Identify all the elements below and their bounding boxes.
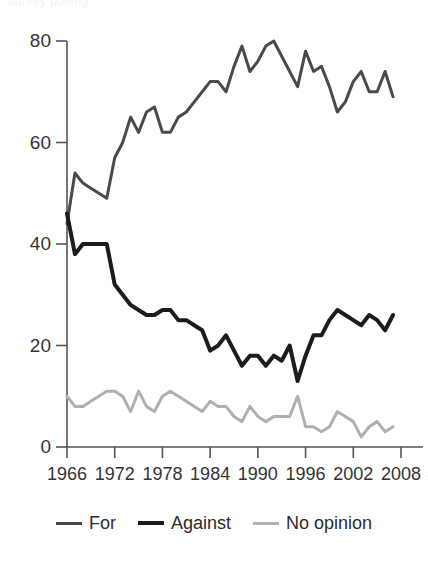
legend-label-no-opinion: No opinion: [286, 514, 372, 532]
y-axis-tick-label: 60: [0, 133, 51, 152]
legend-item-against[interactable]: Against: [138, 514, 231, 532]
y-axis-tick-label: 0: [0, 437, 51, 456]
legend-swatch-no-opinion: [253, 522, 279, 525]
legend-item-for[interactable]: For: [56, 514, 116, 532]
y-axis-tick-label: 20: [0, 336, 51, 355]
chart-root: survey polling For Against No opinion 02…: [0, 0, 428, 562]
legend-item-no-opinion[interactable]: No opinion: [253, 514, 372, 532]
legend-label-for: For: [89, 514, 116, 532]
line-chart-plot: [0, 0, 428, 500]
x-axis-tick-label: 2008: [373, 465, 428, 483]
y-axis-tick-label: 40: [0, 234, 51, 253]
chart-legend: For Against No opinion: [0, 503, 428, 543]
legend-swatch-against: [138, 521, 164, 525]
y-axis-tick-label: 80: [0, 31, 51, 50]
legend-label-against: Against: [171, 514, 231, 532]
legend-swatch-for: [56, 522, 82, 525]
